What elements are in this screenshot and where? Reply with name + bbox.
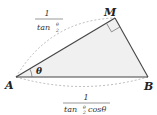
vertex-label-b: B [143,80,153,93]
side-ab-numerator: 1 [83,93,88,102]
angle-label-theta: θ [36,66,42,76]
side-ab-dimension-arc [16,77,148,87]
side-am-denominator-tan: tan [37,23,50,32]
side-ab-denominator-cos: cosθ [88,105,106,114]
side-ab-denominator-frac-top: θ [83,105,86,110]
vertex-label-a: A [4,79,14,92]
side-am-length-label: 1 tan θ 2 [35,9,63,33]
side-am-denominator-frac-top: θ [56,22,59,27]
side-am-denominator-frac-bottom: 2 [55,28,59,33]
side-ab-length-label: 1 tan θ 2 cosθ [63,93,110,115]
side-am-numerator: 1 [44,9,49,18]
triangle-diagram: A M B θ 1 tan θ 2 1 tan θ 2 cosθ [0,0,157,115]
side-ab-denominator-frac-bottom: 2 [82,110,86,115]
side-ab-denominator-tan: tan [64,105,77,114]
vertex-label-m: M [103,6,117,19]
